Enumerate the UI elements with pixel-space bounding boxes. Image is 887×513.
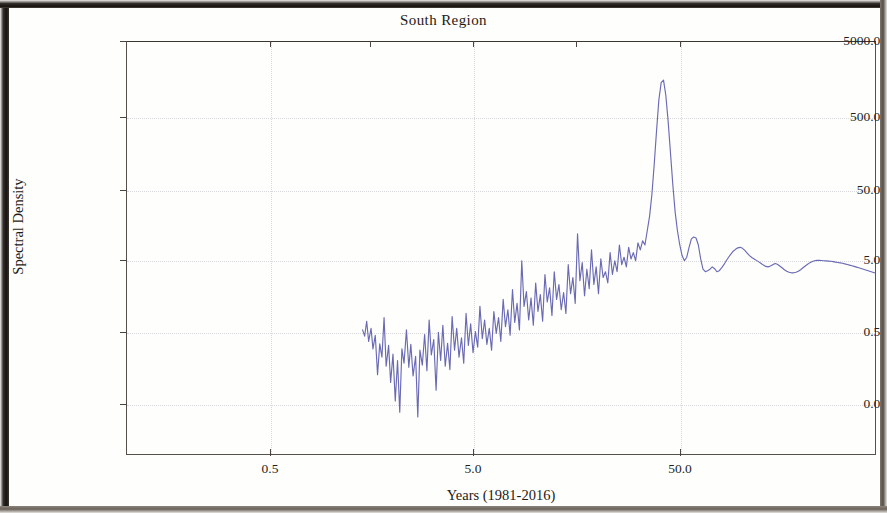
xtick-mark-top	[473, 41, 474, 47]
xtick-mark-top	[680, 41, 681, 47]
ytick-label: 0.05	[769, 396, 887, 412]
scan-border-top	[0, 0, 887, 8]
ytick-mark	[120, 260, 127, 261]
xtick-mark-top	[270, 41, 271, 47]
ytick-mark	[120, 404, 127, 405]
ytick-mark	[120, 190, 127, 191]
y-axis-title: Spectral Density	[10, 147, 27, 307]
chart-title: South Region	[0, 12, 887, 29]
scan-border-bottom	[0, 506, 887, 513]
ytick-mark	[120, 117, 127, 118]
ytick-label: 5.00	[769, 252, 887, 268]
x-axis-title: Years (1981-2016)	[126, 487, 876, 504]
xtick-label: 5.0	[433, 461, 513, 477]
chart-screenshot: South Region 5000.00 500.00 50.00 5.00 0…	[0, 0, 887, 513]
xtick-mark	[473, 449, 474, 456]
ytick-mark	[120, 41, 127, 42]
series-line-layer	[126, 41, 876, 455]
ytick-label: 50.00	[769, 182, 887, 198]
ytick-mark	[120, 332, 127, 333]
xtick-label: 0.5	[230, 461, 310, 477]
xtick-mark-top	[576, 41, 577, 47]
spectral-density-line	[363, 80, 875, 417]
scan-border-right	[880, 0, 887, 513]
ytick-label: 500.00	[769, 109, 887, 125]
scan-border-left	[0, 0, 9, 513]
xtick-mark	[270, 449, 271, 456]
xtick-mark	[680, 449, 681, 456]
ytick-label: 5000.00	[769, 33, 887, 49]
xtick-mark-top	[370, 41, 371, 47]
xtick-label: 50.0	[640, 461, 720, 477]
ytick-label: 0.50	[769, 324, 887, 340]
